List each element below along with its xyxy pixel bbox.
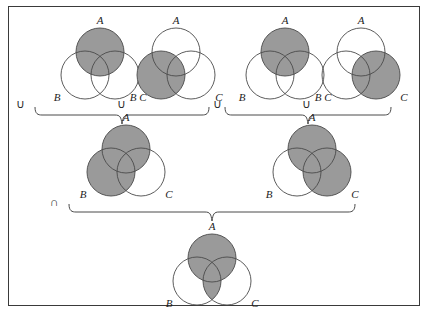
label-A: A	[96, 14, 104, 26]
operator-union-row1-middle: ∪	[213, 98, 222, 110]
label-A: A	[122, 111, 130, 123]
venn-result: A B C	[162, 222, 262, 314]
venn-a-union-b: A B C	[76, 113, 176, 205]
label-B: B	[166, 297, 173, 309]
label-C: C	[351, 188, 359, 200]
label-A: A	[357, 14, 365, 26]
label-B: B	[54, 91, 61, 103]
label-C: C	[165, 188, 173, 200]
operator-union-row1-left: ∪	[16, 98, 25, 110]
label-B: B	[266, 188, 273, 200]
label-A: A	[172, 14, 180, 26]
label-A: A	[208, 220, 216, 232]
label-B: B	[239, 91, 246, 103]
label-C: C	[400, 91, 408, 103]
operator-intersection-row2: ∩	[50, 196, 59, 208]
venn-a-union-c: A B C	[262, 113, 362, 205]
label-B: B	[80, 188, 87, 200]
venn-b-row1: A B C	[126, 16, 226, 108]
venn-distributive-law-figure: ∪ A B C ∪	[0, 0, 430, 316]
label-A: A	[308, 111, 316, 123]
label-A: A	[281, 14, 289, 26]
label-B: B	[130, 91, 137, 103]
label-C: C	[251, 297, 259, 309]
label-B: B	[315, 91, 322, 103]
venn-c-row1: A B C	[311, 16, 411, 108]
